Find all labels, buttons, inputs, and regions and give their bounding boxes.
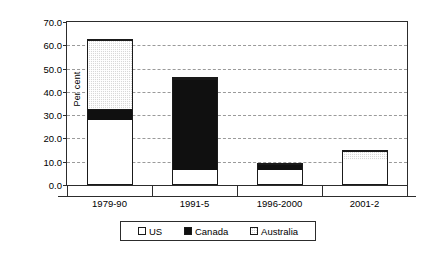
legend-item-canada: Canada [184,226,228,237]
x-tick-mark [67,186,68,196]
y-tick-label: 70.0 [44,17,63,28]
y-tick-label: 40.0 [44,86,63,97]
y-tick-label: 10.0 [44,156,63,167]
chart-legend: USCanadaAustralia [120,221,316,241]
legend-swatch-icon [250,227,258,235]
x-tick-mark [152,186,153,196]
bars-layer [67,22,407,185]
legend-label: Australia [261,226,298,237]
x-tick-label: 1991-5 [180,198,210,209]
bar-1991-5 [172,77,218,185]
legend-swatch-icon [184,227,192,235]
x-tick-mark [407,186,408,196]
bar-chart: Per cent 0.010.020.030.040.050.060.070.0… [0,0,429,255]
legend-item-us: US [138,226,162,237]
legend-swatch-icon [138,227,146,235]
y-tick-label: 20.0 [44,133,63,144]
bar-1979-90 [87,39,133,185]
bar-2001-2 [342,150,388,185]
legend-label: US [149,226,162,237]
x-tick-mark [322,186,323,196]
x-tick-mark [237,186,238,196]
x-tick-label: 1996-2000 [257,198,302,209]
bar-segment-australia [88,40,132,110]
bar-segment-canada [88,109,132,120]
x-tick-label: 2001-2 [350,198,380,209]
plot-area: Per cent 0.010.020.030.040.050.060.070.0 [66,21,408,186]
y-tick-label: 30.0 [44,110,63,121]
bar-segment-canada [173,79,217,170]
bar-1996-2000 [257,163,303,185]
x-axis-line [58,196,416,197]
x-tick-label: 1979-90 [92,198,127,209]
y-tick-label: 50.0 [44,63,63,74]
bar-segment-us [343,160,387,184]
bar-segment-australia [343,151,387,160]
legend-item-australia: Australia [250,226,298,237]
bar-segment-us [173,170,217,185]
bar-segment-us [88,120,132,184]
legend-label: Canada [195,226,228,237]
y-tick-label: 60.0 [44,40,63,51]
y-tick-label: 0.0 [49,180,62,191]
bar-segment-us [258,170,302,184]
